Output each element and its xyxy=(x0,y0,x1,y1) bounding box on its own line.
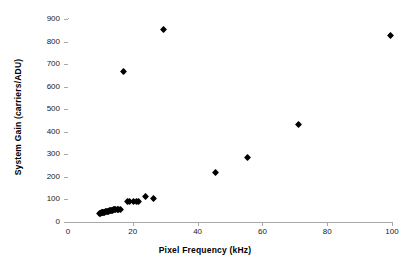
y-tick-label-600: 600 xyxy=(30,82,60,91)
x-axis-line xyxy=(68,222,393,223)
y-tick-label-400: 400 xyxy=(30,127,60,136)
y-tick-label-0: 0 xyxy=(30,217,60,226)
plot-area xyxy=(68,19,392,222)
scatter-chart: System Gain (carriers/ADU) Pixel Frequen… xyxy=(0,0,410,265)
y-tick-label-500: 500 xyxy=(30,104,60,113)
y-tick-label-100: 100 xyxy=(30,194,60,203)
y-tick-label-700: 700 xyxy=(30,59,60,68)
x-tick-100 xyxy=(392,222,393,226)
x-tick-label-40: 40 xyxy=(183,227,213,236)
y-tick-label-800: 800 xyxy=(30,37,60,46)
y-tick-label-900: 900 xyxy=(30,14,60,23)
y-tick-label-300: 300 xyxy=(30,149,60,158)
y-tick-label-200: 200 xyxy=(30,172,60,181)
x-tick-label-100: 100 xyxy=(377,227,407,236)
x-tick-label-20: 20 xyxy=(118,227,148,236)
x-tick-60 xyxy=(262,222,263,226)
x-axis-title: Pixel Frequency (kHz) xyxy=(0,245,410,255)
y-axis-title: System Gain (carriers/ADU) xyxy=(13,17,23,217)
x-tick-40 xyxy=(198,222,199,226)
x-tick-20 xyxy=(133,222,134,226)
x-tick-label-80: 80 xyxy=(312,227,342,236)
x-tick-label-60: 60 xyxy=(247,227,277,236)
x-tick-label-0: 0 xyxy=(53,227,83,236)
x-tick-80 xyxy=(327,222,328,226)
y-tick-0 xyxy=(64,222,68,223)
